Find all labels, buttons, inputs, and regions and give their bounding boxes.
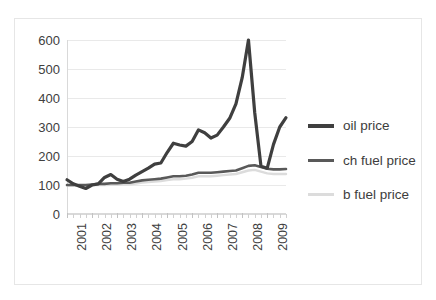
x-axis-tick — [280, 214, 281, 218]
x-axis-tick — [261, 214, 262, 218]
x-axis-tick — [180, 214, 181, 218]
chart-container: 0100200300400500600 20012002200320042005… — [14, 18, 422, 285]
y-axis-tick-label: 500 — [38, 63, 60, 76]
x-axis-tick-label: 2002 — [101, 223, 114, 251]
x-axis-tick — [136, 214, 137, 218]
legend-label: oil price — [343, 119, 390, 133]
x-axis-tick-label: 2004 — [151, 223, 164, 251]
x-axis-tick — [230, 214, 231, 218]
x-axis-tick — [73, 214, 74, 218]
x-axis-tick-label: 2009 — [276, 223, 289, 251]
x-axis-tick — [211, 214, 212, 218]
x-axis-tick — [223, 214, 224, 218]
y-axis-tick-label: 300 — [38, 121, 60, 134]
legend-item[interactable]: oil price — [308, 119, 416, 133]
gridline — [67, 214, 286, 215]
y-axis-tick-label: 200 — [38, 150, 60, 163]
x-axis-tick — [205, 214, 206, 218]
series-lines — [67, 40, 286, 214]
x-axis-tick — [130, 214, 131, 218]
x-axis-tick — [111, 214, 112, 218]
legend-label: ch fuel price — [343, 154, 416, 168]
x-axis-tick — [186, 214, 187, 218]
x-axis-tick — [105, 214, 106, 218]
x-axis-tick — [123, 214, 124, 218]
x-axis-tick-label: 2001 — [76, 223, 89, 251]
x-axis-tick-label: 2007 — [226, 223, 239, 251]
y-axis-tick-label: 100 — [38, 179, 60, 192]
x-axis-tick — [248, 214, 249, 218]
x-axis-tick — [198, 214, 199, 218]
y-axis-tick-label: 400 — [38, 92, 60, 105]
legend-item[interactable]: ch fuel price — [308, 154, 416, 168]
legend-swatch-line-icon — [308, 124, 334, 128]
legend-label: b fuel price — [343, 188, 409, 202]
x-axis-tick — [86, 214, 87, 218]
x-axis-tick — [148, 214, 149, 218]
x-axis-tick — [155, 214, 156, 218]
x-axis-tick — [286, 214, 287, 218]
legend-swatch-line-icon — [308, 159, 334, 162]
x-axis-tick-label: 2003 — [126, 223, 139, 251]
x-axis-tick — [255, 214, 256, 218]
x-axis-tick — [161, 214, 162, 218]
y-axis-tick-label: 0 — [53, 208, 60, 221]
x-axis-tick-label: 2005 — [176, 223, 189, 251]
plot-area: 0100200300400500600 20012002200320042005… — [67, 40, 286, 214]
x-axis-tick — [173, 214, 174, 218]
x-axis-tick-label: 2008 — [251, 223, 264, 251]
x-axis-tick-label: 2006 — [201, 223, 214, 251]
legend-item[interactable]: b fuel price — [308, 188, 416, 202]
x-axis-tick — [98, 214, 99, 218]
y-axis-tick-label: 600 — [38, 34, 60, 47]
x-axis-tick — [236, 214, 237, 218]
x-axis-tick — [273, 214, 274, 218]
chart-legend: oil pricech fuel priceb fuel price — [308, 119, 416, 202]
x-axis-tick — [80, 214, 81, 218]
legend-swatch-line-icon — [308, 193, 334, 196]
